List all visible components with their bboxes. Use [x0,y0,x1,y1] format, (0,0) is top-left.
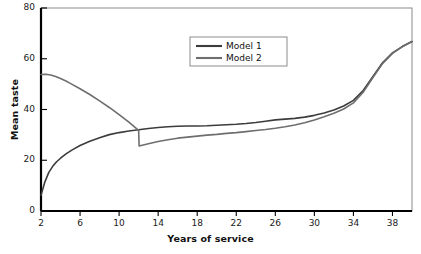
x-tick-label: 6 [68,218,92,228]
y-tick-label: 20 [11,154,35,164]
x-tick-label: 38 [380,218,404,228]
y-tick-label: 60 [11,53,35,63]
x-tick-label: 10 [107,218,131,228]
x-tick-label: 14 [146,218,170,228]
legend-label-model-2: Model 2 [226,53,262,63]
x-tick-label: 2 [29,218,53,228]
chart-plot-area [0,0,421,254]
x-tick-label: 26 [263,218,287,228]
x-tick-label: 34 [341,218,365,228]
x-tick-label: 18 [185,218,209,228]
chart-figure: Model 1 Model 2 Years of service Mean ta… [0,0,421,254]
x-tick-label: 30 [302,218,326,228]
x-tick-label: 22 [224,218,248,228]
y-tick-label: 80 [11,2,35,12]
y-tick-label: 0 [11,205,35,215]
legend-label-model-1: Model 1 [226,41,262,51]
x-axis-title: Years of service [0,233,421,244]
y-tick-label: 40 [11,104,35,114]
